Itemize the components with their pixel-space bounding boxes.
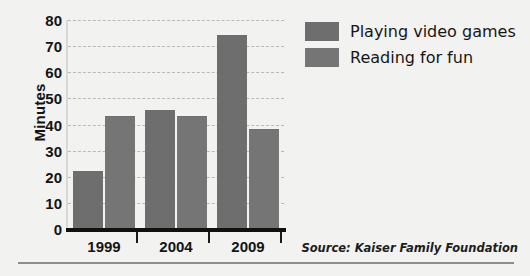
legend-item[interactable]: Reading for fun: [305, 48, 525, 67]
legend-swatch-icon: [305, 22, 339, 41]
legend-label: Playing video games: [350, 22, 516, 41]
legend-swatch-icon: [305, 48, 339, 67]
bottom-divider: [18, 262, 514, 264]
source-note: Source: Kaiser Family Foundation: [301, 241, 518, 255]
legend-item[interactable]: Playing video games: [305, 22, 525, 41]
y-axis-tick-label: 80: [28, 13, 62, 28]
x-axis-line: [66, 228, 286, 232]
gridline: [68, 125, 284, 126]
y-axis-tick-labels: 01020304050607080: [22, 20, 62, 229]
y-axis-tick-label: 40: [28, 117, 62, 132]
y-axis-tick-label: 60: [28, 65, 62, 80]
bar: [73, 171, 103, 229]
y-axis-tick-label: 0: [28, 222, 62, 237]
bar: [249, 129, 279, 229]
plot-area: [68, 20, 284, 229]
y-axis-tick-label: 10: [28, 195, 62, 210]
x-axis-category-label: 1999: [69, 238, 139, 255]
bar-chart-figure: Minutes 01020304050607080 199920042009 P…: [0, 0, 530, 276]
gridline: [68, 20, 284, 21]
gridline: [68, 46, 284, 47]
y-axis-tick-label: 30: [28, 143, 62, 158]
y-axis-tick-label: 50: [28, 91, 62, 106]
chart-legend: Playing video gamesReading for fun: [305, 22, 525, 74]
y-axis-tick-label: 70: [28, 39, 62, 54]
bar: [177, 116, 207, 229]
y-axis-tick-label: 20: [28, 169, 62, 184]
bar: [105, 116, 135, 229]
gridline: [68, 72, 284, 73]
bar: [217, 35, 247, 229]
legend-label: Reading for fun: [350, 48, 473, 67]
gridline: [68, 98, 284, 99]
x-axis-category-label: 2009: [213, 238, 283, 255]
x-axis-category-label: 2004: [141, 238, 211, 255]
bar: [145, 110, 175, 229]
